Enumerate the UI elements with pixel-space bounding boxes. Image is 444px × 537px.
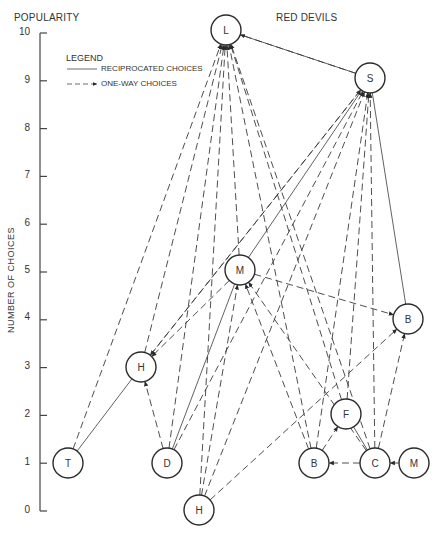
- node-label: F: [343, 409, 349, 420]
- one-way-edge-T-L: [73, 44, 221, 449]
- tick-0: 0: [16, 504, 30, 515]
- node-M1: M: [225, 255, 255, 285]
- tick-8: 8: [16, 122, 30, 133]
- node-H2: H: [184, 495, 214, 525]
- node-T: T: [53, 448, 83, 478]
- node-label: T: [65, 458, 71, 469]
- reciprocated-edge-S-M1: [248, 90, 361, 257]
- y-axis: [40, 33, 47, 511]
- node-label: B: [405, 314, 412, 325]
- one-way-edge-D-L: [169, 45, 224, 448]
- one-way-edge-M1-L: [227, 45, 239, 255]
- node-B2: B: [299, 448, 329, 478]
- one-way-edge-D-S: [174, 91, 363, 449]
- tick-1: 1: [16, 456, 30, 467]
- one-way-edge-H2-S: [205, 92, 365, 496]
- one-way-edge-B2-L: [229, 45, 311, 449]
- node-M2: M: [399, 448, 429, 478]
- popularity-title: POPULARITY: [14, 12, 79, 23]
- one-way-edge-H2-L: [200, 45, 225, 495]
- reciprocated-edge-F-C: [354, 427, 368, 450]
- node-S: S: [355, 63, 385, 93]
- node-label: M: [236, 265, 244, 276]
- one-way-edge-S-H1: [150, 90, 360, 355]
- reciprocated-edge-S-B1: [372, 93, 405, 304]
- one-way-edge-F-L: [231, 44, 342, 399]
- one-way-edge-D-H1: [145, 382, 163, 449]
- one-way-edge-B2-F: [322, 427, 338, 451]
- node-B1: B: [393, 304, 423, 334]
- one-way-edge-C-B1: [378, 334, 404, 449]
- node-label: S: [367, 73, 374, 84]
- node-label: C: [371, 458, 378, 469]
- node-label: B: [311, 458, 318, 469]
- one-way-edge-S-L: [240, 35, 356, 74]
- tick-10: 10: [16, 26, 30, 37]
- one-way-edge-F-S: [347, 93, 369, 399]
- node-label: D: [163, 458, 170, 469]
- team-title: RED DEVILS: [276, 12, 337, 23]
- one-way-edge-C-S: [370, 93, 375, 448]
- one-way-edge-H2-M1: [202, 285, 238, 495]
- node-H1: H: [126, 352, 156, 382]
- node-L: L: [211, 15, 241, 45]
- legend-reciprocated: RECIPROCATED CHOICES: [101, 64, 203, 73]
- legend-one-way: ONE-WAY CHOICES: [101, 79, 177, 88]
- node-D: D: [152, 448, 182, 478]
- legend-samples: [67, 69, 97, 84]
- legend-title: LEGEND: [66, 53, 103, 63]
- y-axis-title: NUMBER OF CHOICES: [6, 227, 16, 333]
- reciprocated-edges: [77, 35, 406, 451]
- tick-9: 9: [16, 74, 30, 85]
- node-C: C: [360, 448, 390, 478]
- tick-2: 2: [16, 408, 30, 419]
- sociogram-canvas: LSMBHFTDBCMH: [0, 0, 444, 537]
- node-label: M: [410, 458, 418, 469]
- one-way-edge-B2-M1: [245, 284, 308, 449]
- node-label: H: [195, 505, 202, 516]
- node-F: F: [331, 399, 361, 429]
- node-label: H: [137, 362, 144, 373]
- tick-4: 4: [16, 311, 30, 322]
- node-label: L: [223, 25, 229, 36]
- tick-7: 7: [16, 169, 30, 180]
- tick-6: 6: [16, 217, 30, 228]
- tick-3: 3: [16, 360, 30, 371]
- tick-5: 5: [16, 264, 30, 275]
